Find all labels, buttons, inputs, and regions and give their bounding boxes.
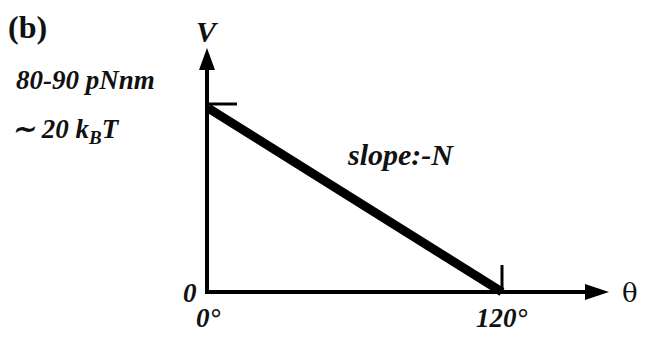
x-axis-label: θ — [622, 278, 638, 308]
x-tick-label-120: 120° — [476, 303, 528, 333]
x-tick-label-0: 0° — [196, 303, 221, 333]
y-axis-label: V — [196, 15, 219, 48]
origin-label: 0 — [183, 278, 197, 308]
y-value-kbt-prefix: ∼ 20 k — [12, 114, 90, 144]
slope-label: slope:-N — [347, 138, 454, 171]
y-value-energy: 80-90 pNnm — [16, 65, 155, 95]
potential-diagram: (b) V θ 80-90 pNnm ∼ 20 kBT 0 0° 120° sl… — [0, 0, 655, 344]
y-value-kbt-sub: B — [88, 127, 102, 148]
y-axis-arrow-icon — [199, 48, 215, 70]
x-axis-arrow-icon — [585, 284, 609, 300]
panel-label: (b) — [8, 9, 47, 45]
y-value-kbt-suffix: T — [102, 114, 120, 144]
y-value-kbt: ∼ 20 kBT — [12, 114, 120, 148]
potential-line — [208, 108, 502, 292]
